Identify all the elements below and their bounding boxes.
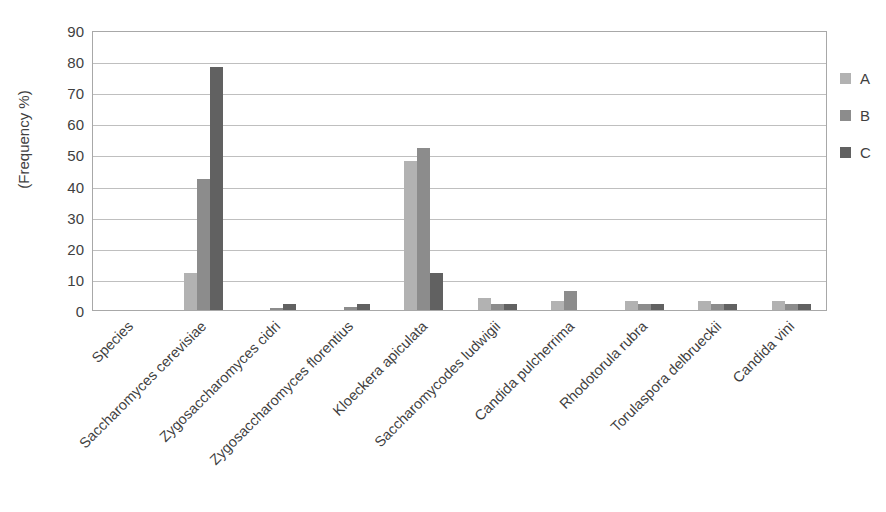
bar bbox=[478, 298, 491, 310]
bar-group bbox=[93, 32, 167, 310]
x-axis-category-label-text: Saccharomyces cerevisiae bbox=[76, 318, 209, 451]
bar bbox=[430, 273, 443, 310]
x-axis-category-label-text: Saccharomycodes ludwigii bbox=[371, 318, 503, 450]
bar-group bbox=[167, 32, 241, 310]
bar bbox=[551, 301, 564, 310]
bar-group bbox=[608, 32, 682, 310]
y-axis-title: (Frequency %) bbox=[15, 70, 32, 210]
bar bbox=[404, 161, 417, 310]
bar bbox=[772, 301, 785, 310]
legend-swatch-icon bbox=[840, 110, 851, 121]
legend-label: B bbox=[860, 108, 870, 123]
bar bbox=[638, 304, 651, 310]
bar-group bbox=[461, 32, 535, 310]
x-axis-category-label: Saccharomycodes ludwigii bbox=[371, 318, 503, 450]
plot-area bbox=[92, 31, 827, 311]
bar-group bbox=[314, 32, 388, 310]
legend-label: C bbox=[860, 145, 871, 160]
x-axis-category-label: Zygosaccharomyces cidri bbox=[156, 318, 283, 445]
x-axis-category-label: Zygosaccharomyces florentius bbox=[207, 318, 357, 468]
bar bbox=[698, 301, 711, 310]
bar-group bbox=[681, 32, 755, 310]
y-axis-tick-label: 70 bbox=[40, 86, 84, 101]
x-axis-category-label: Saccharomyces cerevisiae bbox=[76, 318, 209, 451]
x-axis-category-label-text: Species bbox=[88, 318, 136, 366]
x-axis-category-label: Species bbox=[88, 318, 136, 366]
bar-group bbox=[755, 32, 829, 310]
bar bbox=[651, 304, 664, 310]
chart-legend: ABC bbox=[840, 60, 886, 171]
bar bbox=[564, 291, 577, 310]
x-axis-category-labels: SpeciesSaccharomyces cerevisiaeZygosacch… bbox=[92, 312, 827, 502]
x-axis-category-label-text: Zygosaccharomyces florentius bbox=[207, 318, 357, 468]
bar bbox=[785, 304, 798, 310]
legend-item[interactable]: C bbox=[840, 134, 886, 171]
bar bbox=[504, 304, 517, 310]
bar bbox=[344, 307, 357, 310]
bar-group bbox=[534, 32, 608, 310]
legend-swatch-icon bbox=[840, 73, 851, 84]
bar-group bbox=[240, 32, 314, 310]
y-axis-tick-labels: 9080706050403020100 bbox=[40, 31, 84, 311]
bar bbox=[417, 148, 430, 310]
bar bbox=[270, 308, 283, 310]
bar bbox=[197, 179, 210, 310]
bar bbox=[283, 304, 296, 310]
bar bbox=[357, 304, 370, 310]
legend-label: A bbox=[860, 71, 870, 86]
x-axis-category-label: Candida vini bbox=[730, 318, 798, 386]
y-axis-tick-label: 20 bbox=[40, 241, 84, 256]
y-axis-tick-label: 40 bbox=[40, 179, 84, 194]
legend-item[interactable]: B bbox=[840, 97, 886, 134]
bar bbox=[798, 304, 811, 310]
bar bbox=[184, 273, 197, 310]
bar bbox=[625, 301, 638, 310]
y-axis-tick-label: 0 bbox=[40, 304, 84, 319]
bars-layer bbox=[93, 32, 826, 310]
bar bbox=[711, 304, 724, 310]
legend-item[interactable]: A bbox=[840, 60, 886, 97]
x-axis-category-label-text: Zygosaccharomyces cidri bbox=[156, 318, 283, 445]
bar-group bbox=[387, 32, 461, 310]
bar bbox=[491, 304, 504, 310]
y-axis-tick-label: 60 bbox=[40, 117, 84, 132]
y-axis-tick-label: 50 bbox=[40, 148, 84, 163]
bar bbox=[210, 67, 223, 310]
y-axis-tick-label: 90 bbox=[40, 24, 84, 39]
legend-swatch-icon bbox=[840, 147, 851, 158]
y-axis-tick-label: 10 bbox=[40, 272, 84, 287]
x-axis-category-label-text: Candida vini bbox=[730, 318, 798, 386]
bar-chart: (Frequency %) 9080706050403020100 Specie… bbox=[0, 0, 886, 512]
y-axis-tick-label: 30 bbox=[40, 210, 84, 225]
bar bbox=[724, 304, 737, 310]
y-axis-tick-label: 80 bbox=[40, 55, 84, 70]
